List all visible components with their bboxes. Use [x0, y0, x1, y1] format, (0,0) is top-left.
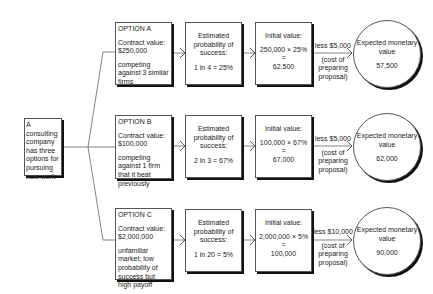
option-a-emv-circle: Expected monetary value 57,500	[353, 20, 421, 88]
root-text: A consulting company has three options f…	[26, 121, 59, 180]
option-a-cost-label: less $5,000 (cost of preparing proposal)	[313, 42, 353, 81]
option-c-init-eq: =	[256, 241, 311, 250]
option-c-emv-circle: Expected monetary value 90,000	[353, 207, 421, 275]
option-b-init-eq: =	[256, 147, 311, 156]
option-a-prob-value: 1 in 4 = 25%	[186, 64, 241, 73]
option-b-init-heading: Initial value:	[256, 125, 311, 134]
option-b-initial-box: Initial value: 100,000 × 67% = 67,000	[255, 115, 312, 178]
option-c-less-note: (cost of preparing proposal)	[313, 242, 353, 268]
option-b-prob-heading: Estimated probability of success:	[194, 125, 234, 149]
option-c-cost-label: less $10,000 (cost of preparing proposal…	[313, 228, 353, 267]
option-a-contract: Contract value: $250,000	[118, 39, 169, 56]
option-a-emv-heading: Expected monetary value	[357, 39, 417, 55]
option-c-init-calc: 2,000,000 × 5%	[256, 233, 311, 242]
option-b-init-calc: 100,000 × 67%	[256, 139, 311, 148]
option-c-box: OPTION C Contract value: $2,000,000 unfa…	[115, 208, 172, 280]
option-c-contract: Contract value: $2,000,000	[118, 225, 169, 242]
option-b-less-note: (cost of preparing proposal)	[313, 149, 353, 175]
option-c-title: OPTION C	[118, 211, 169, 220]
option-b-box: OPTION B Contract value: $100,000 compet…	[115, 115, 172, 179]
option-c-prob-heading: Estimated probability of success:	[194, 219, 234, 243]
option-a-probability-box: Estimated probability of success: 1 in 4…	[185, 22, 242, 85]
option-c-less: less $10,000	[313, 228, 353, 237]
option-c-init-heading: Initial value:	[256, 219, 311, 228]
option-a-less-note: (cost of preparing proposal)	[313, 56, 353, 82]
option-b-emv-value: 62,000	[354, 155, 420, 164]
option-a-less: less $5,000	[313, 42, 353, 51]
option-b-contract: Contract value: $100,000	[118, 132, 169, 149]
option-b-less: less $5,000	[313, 135, 353, 144]
option-c-emv-heading: Expected monetary value	[357, 226, 417, 242]
option-b-cost-label: less $5,000 (cost of preparing proposal)	[313, 135, 353, 174]
option-b-emv-heading: Expected monetary value	[357, 132, 417, 148]
option-c-initial-box: Initial value: 2,000,000 × 5% = 100,000	[255, 209, 312, 272]
option-a-init-result: 62,500	[256, 63, 311, 72]
option-c-init-result: 100,000	[256, 250, 311, 259]
root-box: A consulting company has three options f…	[24, 118, 62, 176]
option-b-emv-circle: Expected monetary value 62,000	[353, 113, 421, 181]
option-a-box: OPTION A Contract value: $250,000 compet…	[115, 22, 172, 85]
option-c-note: unfamiliar market; low probability of su…	[118, 247, 169, 290]
option-a-title: OPTION A	[118, 25, 169, 34]
option-c-prob-value: 1 in 20 = 5%	[186, 251, 241, 260]
option-c-probability-box: Estimated probability of success: 1 in 2…	[185, 209, 242, 272]
option-b-prob-value: 2 in 3 = 67%	[186, 157, 241, 166]
option-a-init-heading: Initial value:	[256, 32, 311, 41]
option-b-title: OPTION B	[118, 118, 169, 127]
option-a-init-calc: 250,000 × 25%	[256, 46, 311, 55]
option-b-init-result: 67,000	[256, 156, 311, 165]
option-a-initial-box: Initial value: 250,000 × 25% = 62,500	[255, 22, 312, 85]
option-c-emv-value: 90,000	[354, 249, 420, 258]
option-a-note: competing against 3 similar firms	[118, 61, 169, 87]
option-b-probability-box: Estimated probability of success: 2 in 3…	[185, 115, 242, 178]
option-b-note: competing against 1 firm that it beat pr…	[118, 154, 169, 188]
option-a-prob-heading: Estimated probability of success:	[194, 32, 234, 56]
option-a-emv-value: 57,500	[354, 62, 420, 71]
option-a-init-eq: =	[256, 54, 311, 63]
